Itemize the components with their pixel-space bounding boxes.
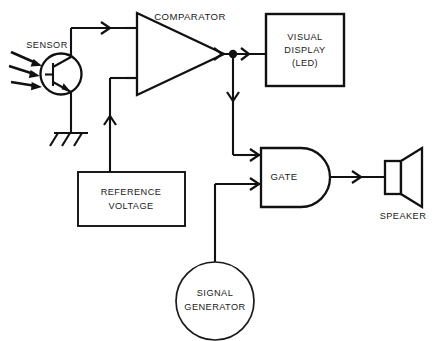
comparator-triangle — [137, 13, 224, 95]
speaker-block: SPEAKER — [380, 148, 427, 221]
reference-voltage-box — [78, 172, 185, 226]
light-arrow-1 — [11, 52, 42, 67]
ground-hatch-1 — [50, 133, 58, 146]
visual-display-line2: DISPLAY — [284, 45, 325, 55]
wire-comparator-to-gate — [227, 54, 261, 161]
visual-display-line3: (LED) — [292, 58, 318, 68]
ground-hatch-2 — [62, 133, 70, 146]
speaker-label: SPEAKER — [380, 211, 427, 221]
light-arrow-3 — [11, 82, 42, 90]
light-arrow-2 — [9, 66, 40, 78]
wire-signal-generator-to-gate — [215, 178, 261, 262]
wire-gate-to-speaker — [330, 171, 385, 183]
signal-generator-block: SIGNAL GENERATOR — [176, 262, 254, 340]
comparator-label: COMPARATOR — [154, 11, 226, 22]
visual-display-line1: VISUAL — [287, 32, 322, 42]
wire-reference-to-comparator — [104, 78, 137, 172]
comparator-block: COMPARATOR — [126, 11, 226, 95]
light-arrows — [9, 52, 42, 90]
ground-symbol — [50, 133, 88, 146]
signal-generator-line1: SIGNAL — [197, 288, 233, 298]
signal-generator-line2: GENERATOR — [184, 302, 245, 312]
ground-hatch-3 — [74, 133, 82, 146]
wire-comparator-output — [214, 48, 266, 60]
circuit-diagram-canvas: SENSOR COMPARATOR — [0, 0, 437, 341]
visual-display-block: VISUAL DISPLAY (LED) — [266, 14, 344, 86]
circuit-diagram: SENSOR COMPARATOR — [0, 0, 437, 341]
gate-block: GATE — [261, 148, 330, 207]
reference-voltage-line1: REFERENCE — [101, 187, 162, 197]
sensor-block: SENSOR — [9, 28, 82, 133]
reference-voltage-block: REFERENCE VOLTAGE — [78, 172, 185, 226]
reference-voltage-line2: VOLTAGE — [108, 201, 153, 211]
gate-label: GATE — [270, 171, 297, 182]
speaker-horn — [401, 148, 422, 207]
signal-generator-ellipse — [176, 262, 254, 340]
speaker-body — [385, 161, 401, 194]
sensor-label: SENSOR — [26, 40, 68, 50]
